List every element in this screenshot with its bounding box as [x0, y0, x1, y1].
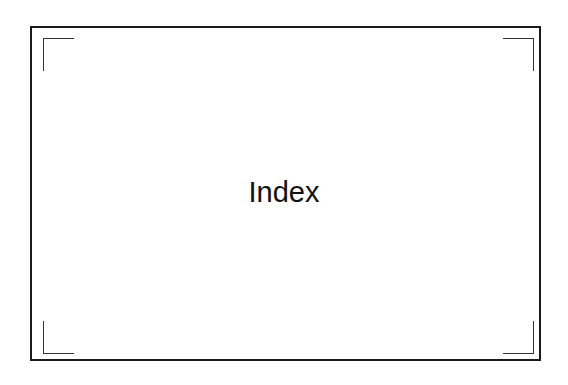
corner-mark-bottom-left [43, 321, 74, 354]
corner-mark-bottom-right [503, 321, 534, 354]
corner-mark-top-left [43, 38, 74, 71]
corner-mark-top-right [503, 38, 534, 71]
page-title: Index [0, 176, 568, 209]
